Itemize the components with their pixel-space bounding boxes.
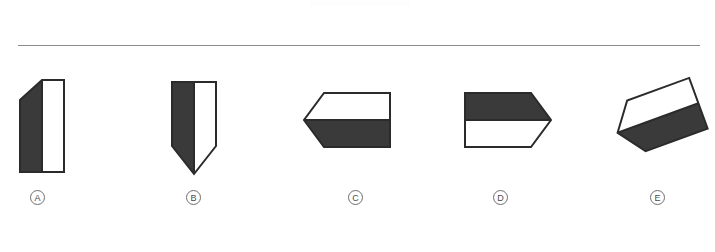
figure-e (586, 60, 715, 175)
figure-c (284, 60, 427, 175)
answer-options-row: A B (0, 60, 715, 240)
figure-a-dark-region (20, 80, 42, 172)
answer-option-d[interactable]: D (429, 60, 572, 240)
horizontal-divider (18, 45, 700, 46)
answer-label-a: A (0, 188, 109, 206)
answer-label-e-text: E (650, 190, 665, 205)
answer-label-a-text: A (30, 190, 45, 205)
figure-c-light-region (304, 93, 390, 120)
figure-a-light-region (42, 80, 64, 172)
answer-option-e[interactable]: E (586, 60, 715, 240)
answer-label-d: D (429, 188, 572, 206)
answer-label-c: C (284, 188, 427, 206)
answer-label-e: E (586, 188, 715, 206)
figure-c-dark-region (304, 120, 390, 147)
figure-d-light-region (465, 120, 551, 147)
answer-label-d-text: D (493, 190, 508, 205)
question-page: A B (0, 0, 715, 252)
answer-label-c-text: C (348, 190, 363, 205)
answer-option-b[interactable]: B (122, 60, 265, 240)
figure-b (122, 60, 265, 175)
figure-d (429, 60, 572, 175)
answer-option-c[interactable]: C (284, 60, 427, 240)
top-scan-artifact (310, 0, 410, 5)
figure-d-dark-region (465, 93, 551, 120)
answer-label-b-text: B (186, 190, 201, 205)
figure-a (0, 60, 109, 175)
answer-label-b: B (122, 188, 265, 206)
answer-option-a[interactable]: A (0, 60, 109, 240)
